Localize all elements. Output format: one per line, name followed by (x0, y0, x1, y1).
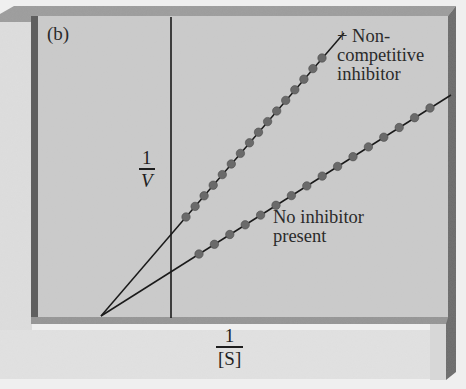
data-point-no-inhibitor (395, 123, 403, 131)
y-label-numerator: 1 (139, 148, 155, 168)
figure-stage: (b) 1 V 1 [S] + Non- competitive inhibit… (0, 0, 466, 389)
data-point-no-inhibitor (333, 162, 341, 170)
data-point-no-inhibitor (210, 240, 218, 248)
data-point-inhibitor (318, 54, 326, 62)
data-point-inhibitor (263, 117, 271, 125)
legend-inhibitor-line3: inhibitor (337, 65, 424, 84)
data-point-inhibitor (209, 181, 217, 189)
base-shelf (0, 330, 430, 379)
legend-no-inhibitor-line1: No inhibitor (273, 208, 364, 227)
data-point-no-inhibitor (256, 211, 264, 219)
data-point-no-inhibitor (241, 221, 249, 229)
data-point-no-inhibitor (195, 250, 203, 258)
legend-noncompetitive-inhibitor: + Non- competitive inhibitor (337, 27, 424, 84)
legend-no-inhibitor-line2: present (273, 227, 364, 246)
x-axis-label: 1 [S] (216, 326, 243, 370)
data-point-no-inhibitor (226, 230, 234, 238)
left-frame (31, 16, 38, 323)
shelf-front (430, 324, 446, 380)
bottom-frame (31, 317, 449, 324)
data-point-inhibitor (227, 160, 235, 168)
left-margin (0, 14, 32, 330)
y-label-denominator: V (139, 170, 155, 192)
data-point-inhibitor (218, 170, 226, 178)
data-point-inhibitor (200, 192, 208, 200)
data-point-inhibitor (236, 149, 244, 157)
data-point-inhibitor (245, 139, 253, 147)
data-point-inhibitor (282, 96, 290, 104)
x-label-denominator: [S] (216, 348, 243, 370)
legend-inhibitor-line1: + Non- (337, 27, 424, 46)
data-point-no-inhibitor (349, 153, 357, 161)
data-point-no-inhibitor (287, 191, 295, 199)
data-point-inhibitor (300, 75, 308, 83)
data-point-inhibitor (254, 128, 262, 136)
data-point-inhibitor (182, 213, 190, 221)
y-axis-label: 1 V (139, 148, 155, 192)
data-point-no-inhibitor (380, 133, 388, 141)
data-point-no-inhibitor (303, 182, 311, 190)
legend-no-inhibitor: No inhibitor present (273, 208, 364, 246)
legend-inhibitor-line2: competitive (337, 46, 424, 65)
data-point-inhibitor (191, 202, 199, 210)
data-point-no-inhibitor (318, 172, 326, 180)
data-point-inhibitor (309, 64, 317, 72)
data-point-inhibitor (291, 86, 299, 94)
data-point-no-inhibitor (364, 143, 372, 151)
data-point-no-inhibitor (426, 104, 434, 112)
data-point-inhibitor (273, 107, 281, 115)
data-point-no-inhibitor (410, 114, 418, 122)
panel-label: (b) (47, 24, 69, 43)
x-label-numerator: 1 (222, 326, 238, 346)
